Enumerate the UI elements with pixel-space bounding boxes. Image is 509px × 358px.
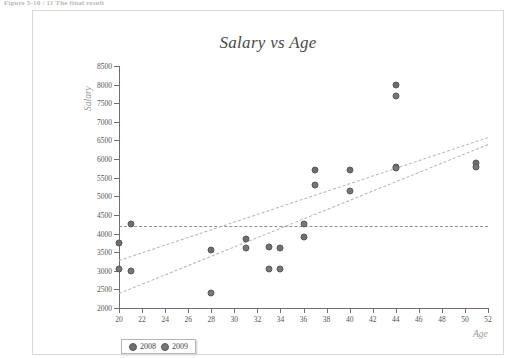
x-tick [442, 308, 443, 313]
trendline-lower-trend [119, 144, 488, 294]
legend-label: 2009 [172, 342, 188, 351]
y-tick [114, 122, 119, 123]
data-point[interactable] [346, 167, 353, 174]
chart-title: Salary vs Age [33, 33, 503, 53]
x-tick [119, 308, 120, 313]
x-tick [465, 308, 466, 313]
data-point[interactable] [277, 245, 284, 252]
data-point[interactable] [473, 163, 480, 170]
plot-area: 2000250030003500400045005000550060006500… [119, 66, 488, 308]
trendline-upper-trend [119, 137, 488, 261]
x-tick [327, 308, 328, 313]
x-tick-label: 50 [461, 315, 469, 324]
y-tick [114, 215, 119, 216]
y-tick-label: 5500 [97, 173, 112, 182]
x-tick-label: 48 [438, 315, 446, 324]
x-tick-label: 44 [392, 315, 400, 324]
x-tick [304, 308, 305, 313]
y-tick [114, 196, 119, 197]
x-tick [165, 308, 166, 313]
y-tick-label: 4000 [97, 229, 112, 238]
figure-caption: Figure 5-10 / 11 The final result [4, 0, 104, 7]
y-tick [114, 289, 119, 290]
x-tick [396, 308, 397, 313]
data-point[interactable] [312, 182, 319, 189]
x-tick-label: 22 [138, 315, 146, 324]
x-tick [488, 308, 489, 313]
data-point[interactable] [300, 234, 307, 241]
data-point[interactable] [392, 81, 399, 88]
x-tick [142, 308, 143, 313]
legend-marker-icon [161, 343, 169, 351]
y-tick [114, 66, 119, 67]
data-point[interactable] [242, 245, 249, 252]
data-point[interactable] [242, 236, 249, 243]
legend-label: 2008 [140, 342, 156, 351]
chart-frame: Salary vs Age Salary Age 200025003000350… [32, 10, 504, 355]
y-tick-label: 4500 [97, 210, 112, 219]
chart-legend[interactable]: 20082009 [121, 339, 196, 354]
y-tick-label: 8000 [97, 80, 112, 89]
x-tick-label: 46 [415, 315, 423, 324]
data-point[interactable] [300, 221, 307, 228]
y-tick-label: 2000 [97, 304, 112, 313]
x-tick-label: 52 [484, 315, 492, 324]
x-tick [373, 308, 374, 313]
data-point[interactable] [277, 265, 284, 272]
data-point[interactable] [392, 165, 399, 172]
data-point[interactable] [346, 187, 353, 194]
y-tick-label: 6500 [97, 136, 112, 145]
y-tick [114, 159, 119, 160]
x-tick [257, 308, 258, 313]
y-tick [114, 252, 119, 253]
x-tick-label: 42 [369, 315, 377, 324]
y-tick-label: 3000 [97, 266, 112, 275]
data-point[interactable] [127, 221, 134, 228]
x-tick [188, 308, 189, 313]
y-tick-label: 7000 [97, 117, 112, 126]
data-point[interactable] [265, 265, 272, 272]
y-tick [114, 234, 119, 235]
legend-item-2009[interactable]: 2009 [161, 342, 188, 351]
y-tick-label: 7500 [97, 99, 112, 108]
x-tick-label: 24 [161, 315, 169, 324]
x-tick-label: 40 [346, 315, 354, 324]
data-point[interactable] [208, 290, 215, 297]
x-tick [350, 308, 351, 313]
x-tick-label: 20 [115, 315, 123, 324]
data-point[interactable] [208, 247, 215, 254]
y-tick [114, 178, 119, 179]
legend-item-2008[interactable]: 2008 [129, 342, 156, 351]
data-point[interactable] [265, 243, 272, 250]
y-tick-label: 2500 [97, 285, 112, 294]
y-axis-label: Salary [83, 86, 93, 111]
data-point[interactable] [127, 267, 134, 274]
x-tick [234, 308, 235, 313]
x-tick-label: 28 [208, 315, 216, 324]
data-point[interactable] [116, 239, 123, 246]
x-tick-label: 38 [323, 315, 331, 324]
y-tick-label: 8500 [97, 62, 112, 71]
x-tick [280, 308, 281, 313]
y-tick [114, 140, 119, 141]
data-point[interactable] [116, 265, 123, 272]
y-tick [114, 103, 119, 104]
x-axis-label: Age [473, 329, 488, 339]
x-tick [419, 308, 420, 313]
y-tick-label: 6000 [97, 155, 112, 164]
y-tick-label: 5000 [97, 192, 112, 201]
x-tick-label: 30 [231, 315, 239, 324]
x-tick-label: 26 [184, 315, 192, 324]
x-tick-label: 34 [277, 315, 285, 324]
y-tick [114, 85, 119, 86]
x-tick [211, 308, 212, 313]
y-tick-label: 3500 [97, 248, 112, 257]
data-point[interactable] [392, 92, 399, 99]
x-tick-label: 32 [254, 315, 262, 324]
x-tick-label: 36 [300, 315, 308, 324]
legend-marker-icon [129, 343, 137, 351]
data-point[interactable] [312, 167, 319, 174]
